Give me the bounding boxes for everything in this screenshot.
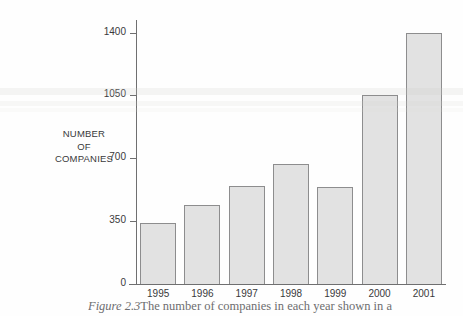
x-axis-line [129,284,446,285]
bar [140,223,176,284]
y-axis-title-line-1: NUMBER [36,128,132,141]
x-tick-label: 1995 [136,288,180,299]
y-tick-label: 1050 [104,88,126,99]
plot-area: 035070010501400 199519961997199819992000… [136,20,446,284]
x-tick-label: 2001 [402,288,446,299]
figure-caption: Figure 2.3The number of companies in eac… [88,299,458,314]
figure-number: Figure 2.3 [88,299,140,313]
y-tick-label: 700 [109,151,126,162]
bar-series [136,20,446,284]
x-tick-label: 1999 [313,288,357,299]
y-tick-label: 1400 [104,26,126,37]
bar [317,187,353,284]
x-tick-label: 1997 [225,288,269,299]
x-tick-label: 1998 [269,288,313,299]
figure-caption-text: The number of companies in each year sho… [140,299,392,313]
figure-container: NUMBER OF COMPANIES 035070010501400 1995… [0,0,463,316]
y-tick-label: 350 [109,214,126,225]
bar [362,95,398,284]
bar [229,186,265,284]
x-tick-label: 1996 [180,288,224,299]
bar [406,33,442,284]
y-tick-label: 0 [120,277,126,288]
bar [273,164,309,284]
y-tick-mark: 0 [130,284,136,285]
x-tick-label: 2000 [358,288,402,299]
bar [184,205,220,284]
